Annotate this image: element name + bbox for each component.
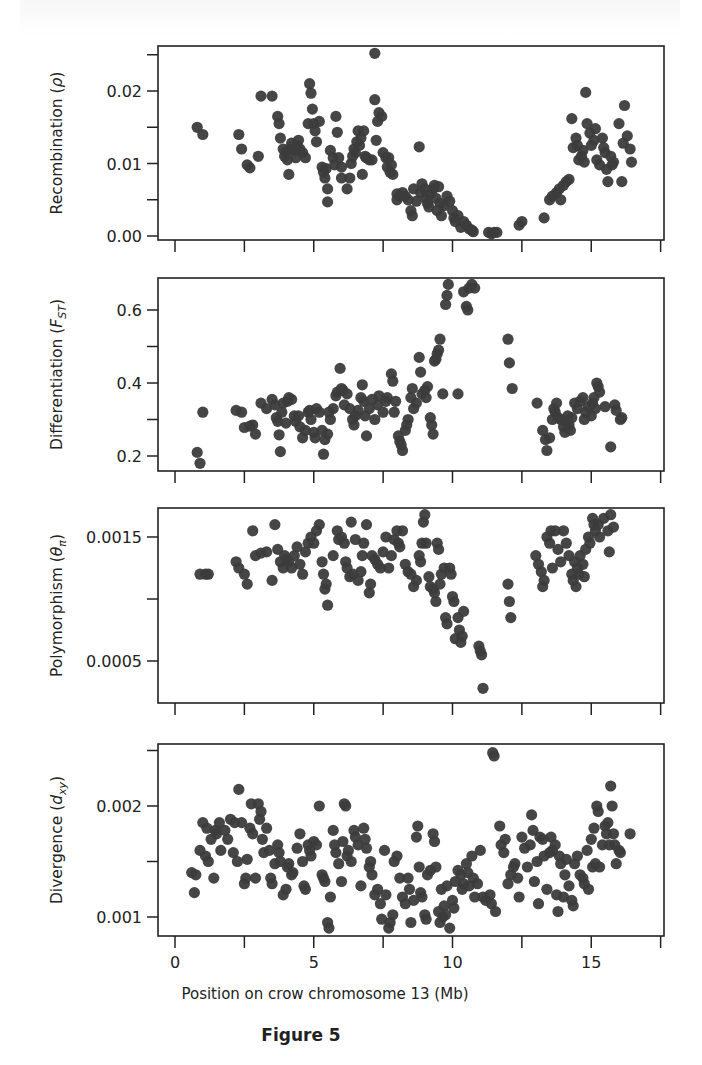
data-point: [378, 407, 389, 418]
data-point: [300, 884, 311, 895]
data-point: [550, 839, 561, 850]
data-point: [322, 600, 333, 611]
data-point: [357, 169, 368, 180]
data-point: [448, 903, 459, 914]
data-point: [526, 809, 537, 820]
data-point: [415, 367, 426, 378]
y-tick-label: 0.01: [106, 155, 142, 174]
data-point: [267, 575, 278, 586]
data-point: [490, 906, 501, 917]
bleed-through-text: [20, 0, 680, 36]
data-point: [516, 216, 527, 227]
data-point: [261, 546, 272, 557]
data-point: [247, 525, 258, 536]
data-point: [443, 279, 454, 290]
data-point: [389, 407, 400, 418]
panel-recombination: 0.000.010.02Recombination (ρ): [48, 46, 664, 252]
data-point: [319, 172, 330, 183]
data-point: [407, 383, 418, 394]
y-tick-label: 0.4: [117, 374, 142, 393]
data-point: [421, 914, 432, 925]
data-point: [307, 104, 318, 115]
data-point: [274, 118, 285, 129]
data-point: [458, 606, 469, 617]
data-point: [342, 183, 353, 194]
data-point: [233, 129, 244, 140]
data-point: [330, 847, 341, 858]
data-point: [414, 352, 425, 363]
data-point: [386, 550, 397, 561]
data-point: [293, 410, 304, 421]
data-point: [462, 304, 473, 315]
data-point: [267, 91, 278, 102]
data-point: [566, 113, 577, 124]
data-point: [414, 861, 425, 872]
data-point: [318, 449, 329, 460]
data-point: [552, 906, 563, 917]
data-point: [311, 136, 322, 147]
data-point: [605, 441, 616, 452]
data-point: [240, 873, 251, 884]
data-point: [582, 845, 593, 856]
data-point: [319, 876, 330, 887]
data-point: [476, 649, 487, 660]
x-tick-label: 5: [309, 953, 319, 972]
data-point: [579, 571, 590, 582]
data-point: [563, 880, 574, 891]
data-point: [380, 889, 391, 900]
data-point: [622, 130, 633, 141]
data-point: [222, 834, 233, 845]
data-point: [608, 828, 619, 839]
y-axis-label: Recombination (ρ): [48, 72, 66, 215]
data-point: [397, 525, 408, 536]
data-point: [250, 429, 261, 440]
data-point: [358, 823, 369, 834]
data-point: [339, 538, 350, 549]
data-point: [322, 196, 333, 207]
data-point: [570, 581, 581, 592]
figure: 0.000.010.02Recombination (ρ)0.20.40.6Di…: [0, 0, 702, 1065]
data-point: [342, 388, 353, 399]
data-point: [394, 541, 405, 552]
data-point: [469, 283, 480, 294]
data-point: [328, 825, 339, 836]
data-point: [577, 559, 588, 570]
data-point: [579, 157, 590, 168]
data-point: [583, 884, 594, 895]
data-point: [590, 123, 601, 134]
panel-polymorphism: 0.00050.0015Polymorphism (θπ): [48, 508, 664, 715]
data-point: [500, 834, 511, 845]
data-point: [203, 569, 214, 580]
data-point: [602, 176, 613, 187]
data-point: [361, 430, 372, 441]
data-point: [516, 832, 527, 843]
data-point: [369, 94, 380, 105]
data-point: [597, 133, 608, 144]
panel-divergence: 0.0010.002Divergence (dxy): [48, 744, 664, 948]
data-point: [457, 631, 468, 642]
data-point: [555, 194, 566, 205]
data-point: [507, 383, 518, 394]
x-tick-label: 15: [581, 953, 601, 972]
data-point: [340, 800, 351, 811]
data-point: [428, 429, 439, 440]
data-point: [197, 407, 208, 418]
data-point: [192, 447, 203, 458]
data-point: [333, 858, 344, 869]
data-point: [366, 869, 377, 880]
data-point: [244, 162, 255, 173]
data-point: [190, 869, 201, 880]
data-point: [286, 394, 297, 405]
data-point: [280, 884, 291, 895]
data-point: [512, 873, 523, 884]
data-point: [411, 832, 422, 843]
data-point: [346, 517, 357, 528]
data-point: [330, 111, 341, 122]
data-point: [343, 845, 354, 856]
data-point: [387, 909, 398, 920]
data-point: [419, 509, 430, 520]
data-point: [358, 538, 369, 549]
data-point: [602, 817, 613, 828]
data-point: [336, 876, 347, 887]
data-point: [321, 579, 332, 590]
